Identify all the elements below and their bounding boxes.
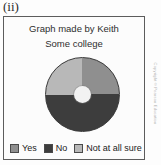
legend-item-yes: Yes <box>10 144 37 153</box>
legend-item-no: No <box>44 144 68 153</box>
legend-label-not-at-all-sure: Not at all sure <box>86 144 142 153</box>
chart-frame: Graph made by Keith Some college Yes No … <box>3 16 145 160</box>
legend-swatch-yes <box>10 144 19 153</box>
figure-panel: (ii) Graph made by Keith Some college Ye… <box>0 0 161 165</box>
legend-label-yes: Yes <box>22 144 37 153</box>
chart-legend: Yes No Not at all sure <box>10 144 140 153</box>
legend-swatch-no <box>44 144 53 153</box>
pie-chart <box>45 57 120 132</box>
pie-center-hole <box>74 86 91 103</box>
chart-subtitle: Some college <box>4 38 144 49</box>
publisher-credit-text: Copyright © Pearson Education <box>154 62 159 124</box>
item-number-label: (ii) <box>3 0 19 15</box>
legend-label-no: No <box>56 144 68 153</box>
chart-title: Graph made by Keith <box>4 23 144 34</box>
legend-swatch-not-at-all-sure <box>74 144 83 153</box>
publisher-credit: Copyright © Pearson Education <box>151 34 161 152</box>
legend-item-not-at-all-sure: Not at all sure <box>74 144 142 153</box>
